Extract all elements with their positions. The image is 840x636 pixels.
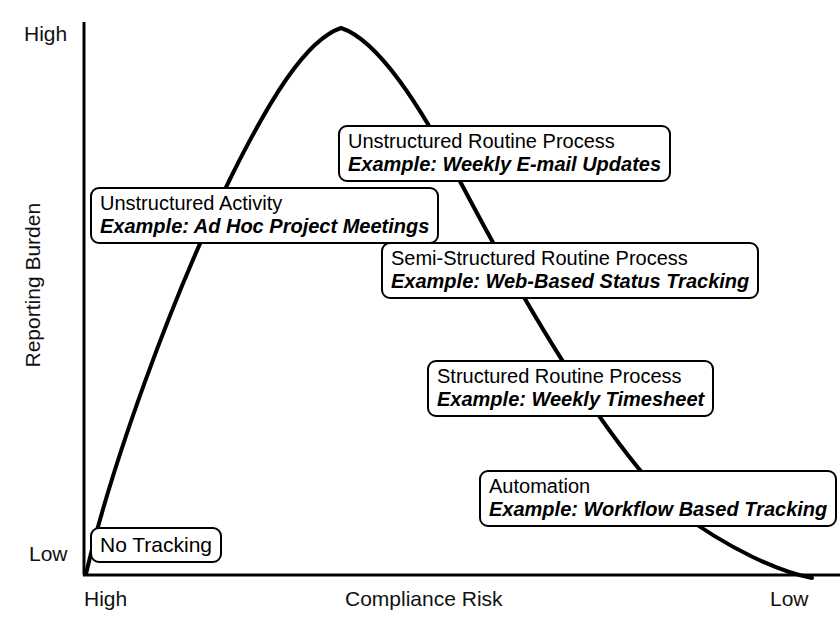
callout-no-tracking: No Tracking (90, 527, 222, 563)
callout-unstructured-activity-title: Unstructured Activity (100, 192, 429, 215)
callout-unstructured-activity-example: Example: Ad Hoc Project Meetings (100, 215, 429, 238)
callout-automation-example: Example: Workflow Based Tracking (489, 498, 827, 521)
callout-semi-structured-routine-process: Semi-Structured Routine Process Example:… (381, 242, 759, 299)
callout-semi-structured-routine-process-title: Semi-Structured Routine Process (391, 247, 749, 270)
callout-automation-title: Automation (489, 475, 827, 498)
callout-structured-routine-process: Structured Routine Process Example: Week… (427, 360, 714, 417)
x-axis-tick-high: High (84, 588, 127, 609)
chart-canvas: High Low High Low Compliance Risk Report… (0, 0, 840, 636)
x-axis-title: Compliance Risk (345, 588, 503, 609)
callout-unstructured-routine-process-example: Example: Weekly E-mail Updates (348, 153, 661, 176)
callout-structured-routine-process-example: Example: Weekly Timesheet (437, 388, 704, 411)
y-axis-tick-low: Low (29, 543, 68, 564)
y-axis-tick-high: High (24, 23, 67, 44)
callout-unstructured-routine-process: Unstructured Routine Process Example: We… (338, 125, 671, 182)
y-axis-title: Reporting Burden (22, 208, 43, 368)
callout-unstructured-activity: Unstructured Activity Example: Ad Hoc Pr… (90, 187, 439, 244)
callout-semi-structured-routine-process-example: Example: Web-Based Status Tracking (391, 270, 749, 293)
callout-unstructured-routine-process-title: Unstructured Routine Process (348, 130, 661, 153)
callout-automation: Automation Example: Workflow Based Track… (479, 470, 837, 527)
callout-no-tracking-title: No Tracking (100, 532, 212, 557)
callout-structured-routine-process-title: Structured Routine Process (437, 365, 704, 388)
x-axis-tick-low: Low (770, 588, 809, 609)
